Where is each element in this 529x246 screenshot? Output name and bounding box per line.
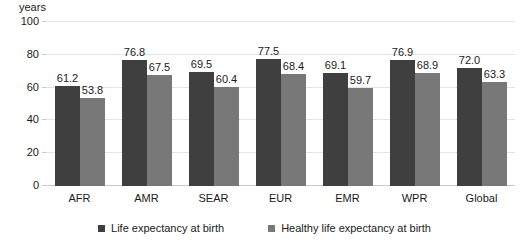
x-axis-category-label: EMR: [315, 192, 381, 204]
y-axis-tick-label: 100: [21, 16, 39, 27]
legend-label: Life expectancy at birth: [111, 222, 224, 234]
legend-label: Healthy life expectancy at birth: [281, 222, 431, 234]
y-axis-tick-mark: [42, 87, 46, 88]
y-axis-tick-mark: [42, 119, 46, 120]
bar-value-label: 69.1: [319, 59, 353, 71]
x-axis-category-label: AFR: [47, 192, 113, 204]
bar-group: 77.568.4EUR: [256, 22, 306, 186]
y-axis-tick-label: 0: [33, 180, 39, 191]
x-axis-category-label: WPR: [382, 192, 448, 204]
bar-value-label: 76.8: [118, 46, 152, 58]
bar[interactable]: 72.0: [457, 68, 482, 186]
bar-value-label: 72.0: [453, 54, 487, 66]
y-axis-tick-mark: [42, 185, 46, 186]
bar-value-label: 67.5: [143, 61, 177, 73]
legend-item[interactable]: Life expectancy at birth: [98, 222, 224, 234]
x-axis-category-label: SEAR: [181, 192, 247, 204]
legend-swatch-icon: [98, 225, 105, 232]
y-axis-tick-label: 40: [27, 114, 39, 125]
bar-value-label: 59.7: [344, 74, 378, 86]
bar[interactable]: 69.1: [323, 73, 348, 186]
legend-swatch-icon: [268, 225, 275, 232]
bar-group: 69.159.7EMR: [323, 22, 373, 186]
bar-value-label: 61.2: [51, 72, 85, 84]
bar[interactable]: 76.9: [390, 60, 415, 186]
plot-area: 02040608010061.253.8AFR76.867.5AMR69.560…: [46, 22, 515, 186]
bar[interactable]: 69.5: [189, 72, 214, 186]
bar[interactable]: 67.5: [147, 75, 172, 186]
bar[interactable]: 59.7: [348, 88, 373, 186]
grouped-bar-chart: years 02040608010061.253.8AFR76.867.5AMR…: [0, 0, 529, 246]
bar[interactable]: 68.9: [415, 73, 440, 186]
y-axis-tick-mark: [42, 54, 46, 55]
bar[interactable]: 76.8: [122, 60, 147, 186]
bar-value-label: 77.5: [252, 45, 286, 57]
bar-group: 61.253.8AFR: [55, 22, 105, 186]
bar-value-label: 76.9: [386, 46, 420, 58]
bar[interactable]: 61.2: [55, 86, 80, 186]
bar-value-label: 63.3: [478, 68, 512, 80]
y-axis-tick-mark: [42, 152, 46, 153]
bar-value-label: 68.9: [411, 59, 445, 71]
bar[interactable]: 68.4: [281, 74, 306, 186]
y-axis-unit-caption: years: [19, 1, 46, 13]
y-axis-tick-label: 60: [27, 81, 39, 92]
bar-group: 69.560.4SEAR: [189, 22, 239, 186]
bar[interactable]: 63.3: [482, 82, 507, 186]
y-axis-tick-label: 80: [27, 48, 39, 59]
bar-value-label: 53.8: [76, 84, 110, 96]
x-axis-category-label: AMR: [114, 192, 180, 204]
bar-group: 76.867.5AMR: [122, 22, 172, 186]
legend-item[interactable]: Healthy life expectancy at birth: [268, 222, 431, 234]
bar-value-label: 60.4: [210, 73, 244, 85]
x-axis-category-label: EUR: [248, 192, 314, 204]
y-axis-tick-mark: [42, 21, 46, 22]
bar[interactable]: 60.4: [214, 87, 239, 186]
chart-legend: Life expectancy at birthHealthy life exp…: [0, 222, 529, 234]
bar-value-label: 68.4: [277, 60, 311, 72]
bar[interactable]: 77.5: [256, 59, 281, 186]
bar-group: 72.063.3Global: [457, 22, 507, 186]
y-axis-tick-label: 20: [27, 147, 39, 158]
bar-group: 76.968.9WPR: [390, 22, 440, 186]
x-axis-category-label: Global: [449, 192, 515, 204]
bar[interactable]: 53.8: [80, 98, 105, 186]
bar-value-label: 69.5: [185, 58, 219, 70]
